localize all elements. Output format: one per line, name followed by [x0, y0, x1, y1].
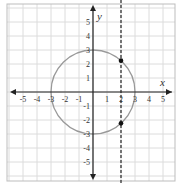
y-tick-label: 3 [86, 46, 90, 55]
x-axis-label: x [159, 76, 165, 88]
x-tick-label: 2 [119, 95, 123, 104]
y-tick-label: -1 [83, 102, 90, 111]
axes [10, 5, 172, 180]
x-tick-label: -2 [62, 95, 69, 104]
x-tick-label: 1 [105, 95, 109, 104]
intersection-point [119, 121, 124, 126]
x-axis-arrow-left [10, 89, 16, 95]
y-tick-label: 1 [86, 74, 90, 83]
coordinate-plane-chart: -5-4-3-2-112345-5-4-3-2-112345 x y [0, 0, 178, 185]
y-axis-label: y [96, 10, 102, 22]
y-axis-arrow-down [90, 174, 96, 180]
y-tick-label: -2 [83, 116, 90, 125]
x-tick-label: -1 [76, 95, 83, 104]
x-tick-label: 4 [147, 95, 151, 104]
x-tick-label: -4 [34, 95, 41, 104]
intersection-point [119, 58, 124, 63]
x-axis-arrow-right [166, 89, 172, 95]
y-tick-label: 4 [86, 32, 90, 41]
x-tick-label: -3 [48, 95, 55, 104]
y-tick-label: -3 [83, 130, 90, 139]
y-tick-label: 5 [86, 18, 90, 27]
x-tick-label: -5 [20, 95, 27, 104]
y-tick-label: -4 [83, 144, 90, 153]
x-tick-label: 5 [161, 95, 165, 104]
x-tick-label: 3 [133, 95, 137, 104]
y-tick-label: 2 [86, 60, 90, 69]
y-tick-label: -5 [83, 158, 90, 167]
